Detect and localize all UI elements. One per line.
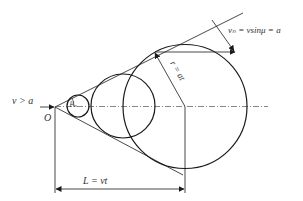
normal-velocity-label: vₙ = vsinμ = a <box>228 25 281 35</box>
radius-label: r = at <box>168 59 187 83</box>
mach-cone-diagram: v > a O μ r = at vₙ = vsinμ = a L = vt <box>0 0 303 201</box>
upper-mach-line <box>55 13 243 107</box>
velocity-condition-label: v > a <box>12 95 33 106</box>
distance-label: L = vt <box>82 175 108 186</box>
mach-angle-label: μ <box>69 98 74 107</box>
origin-label: O <box>44 112 51 123</box>
